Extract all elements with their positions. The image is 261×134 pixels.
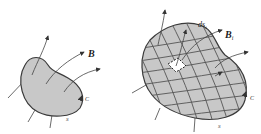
curve-label-c: C — [85, 96, 90, 102]
field-label-bi: Bi — [224, 29, 234, 41]
element-label-ds: dsi — [198, 20, 207, 30]
field-line-tail — [155, 108, 160, 120]
curve-label-c: C — [250, 95, 255, 101]
left-surface-group: B C S — [8, 36, 100, 128]
field-line-tail — [132, 85, 146, 93]
field-line-tail — [194, 118, 195, 132]
right-surface-group: dsi Bi C S — [128, 10, 258, 132]
surface-label-s: S — [66, 117, 69, 122]
surface-label-s: S — [218, 124, 221, 129]
left-surface — [21, 58, 83, 117]
field-label-b: B — [87, 48, 95, 59]
flux-diagram: B C S dsi B — [0, 0, 261, 134]
field-line-tail — [50, 115, 52, 128]
field-line-tail — [28, 110, 35, 122]
